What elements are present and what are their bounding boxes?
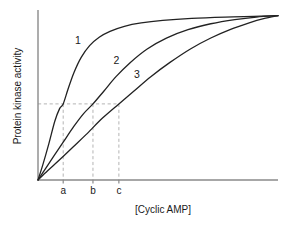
curve-label-1: 1 xyxy=(75,34,81,46)
x-tick-label-c: c xyxy=(116,185,121,196)
x-tick-label-a: a xyxy=(60,185,66,196)
x-tick-label-b: b xyxy=(90,185,96,196)
curve-label-3: 3 xyxy=(134,68,140,80)
x-axis-title: [Cyclic AMP] xyxy=(135,204,191,215)
curve-label-2: 2 xyxy=(114,54,120,66)
y-axis-title: Protein kinase activity xyxy=(12,48,23,145)
curve-labels-group: 1 2 3 xyxy=(75,34,140,79)
x-tick-labels-group: a b c xyxy=(60,185,121,196)
figure-container: 1 2 3 a b c [Cyclic AMP] Protein kinase … xyxy=(0,0,290,225)
plot-canvas: 1 2 3 a b c [Cyclic AMP] Protein kinase … xyxy=(0,0,290,225)
